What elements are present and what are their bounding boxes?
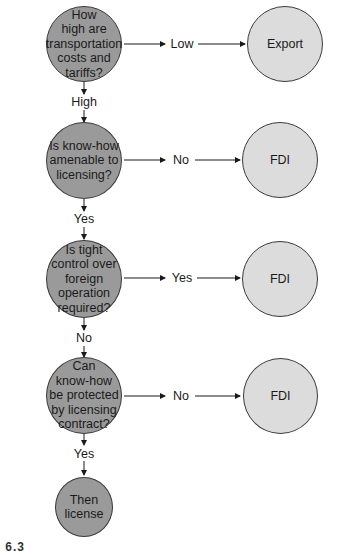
decision-text: Can know-how be protected by licensing c… (49, 359, 119, 432)
edge-label-low: Low (169, 37, 196, 51)
edge-label-yes: Yes (72, 447, 96, 461)
edge-label-high: High (69, 95, 99, 109)
decision-text: Is know-how amenable to licensing? (49, 139, 118, 183)
outcome-text: FDI (270, 272, 290, 286)
edge-label-no: No (171, 389, 191, 403)
edge-label-no: No (171, 153, 191, 167)
outcome-text: FDI (270, 153, 290, 167)
decision-node-know-how-licensing: Is know-how amenable to licensing? (46, 122, 122, 199)
edge-label-yes: Yes (170, 271, 194, 285)
terminal-text: Then license (65, 493, 104, 522)
decision-text: How high are transportation costs and ta… (46, 8, 122, 81)
outcome-node-export: Export (247, 6, 323, 82)
outcome-node-fdi-2: FDI (242, 241, 318, 317)
edge-label-yes: Yes (72, 212, 96, 226)
outcome-text: FDI (270, 389, 290, 403)
decision-text: Is tight control over foreign operation … (51, 243, 116, 316)
decision-node-know-how-protection: Can know-how be protected by licensing c… (46, 357, 122, 434)
outcome-node-fdi-3: FDI (243, 358, 318, 434)
figure-caption-fragment: E 6.3 (0, 540, 25, 554)
decision-node-transport-costs: How high are transportation costs and ta… (46, 6, 122, 82)
decision-node-tight-control: Is tight control over foreign operation … (46, 240, 122, 318)
outcome-text: Export (267, 37, 303, 51)
outcome-node-fdi-1: FDI (242, 122, 318, 198)
edge-label-no: No (74, 331, 94, 345)
terminal-node-license: Then license (55, 477, 113, 537)
